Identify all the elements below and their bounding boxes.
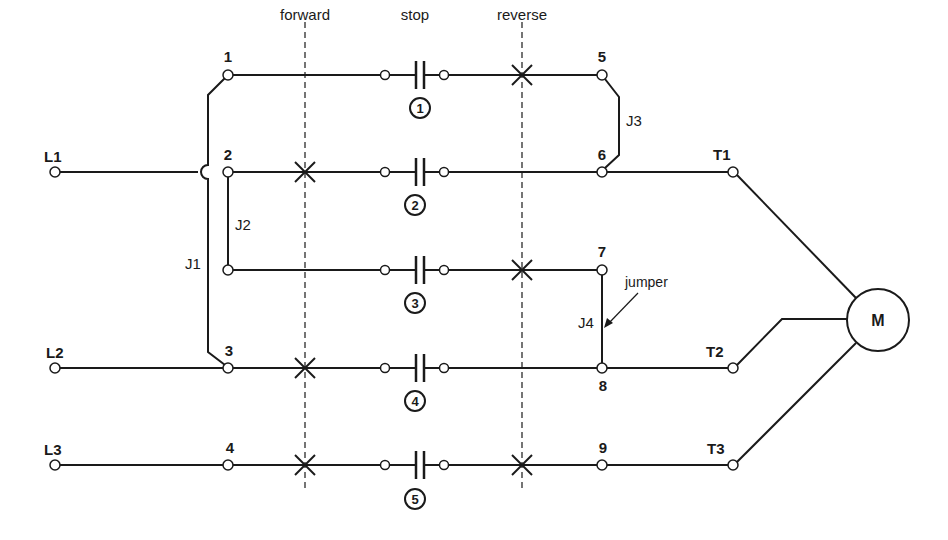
- jumper-arrow: [604, 293, 638, 328]
- jumper-J1: [201, 78, 225, 365]
- motor-label: M: [871, 312, 884, 329]
- node-T3: [728, 460, 738, 470]
- label-T3: T3: [707, 440, 725, 457]
- label-J2: J2: [235, 216, 251, 233]
- label-node-3: 3: [225, 342, 233, 359]
- label-node-6: 6: [598, 146, 606, 163]
- jumper-label: jumper: [624, 274, 668, 290]
- contact-number-1: 1: [410, 98, 430, 118]
- node-1: [223, 70, 233, 80]
- reverse-label: reverse: [497, 6, 547, 23]
- node-L3: [50, 460, 60, 470]
- svg-text:4: 4: [411, 394, 419, 409]
- node-9: [597, 460, 607, 470]
- node-T1: [728, 167, 738, 177]
- contact-number-4: 4: [405, 391, 425, 411]
- node-J2-end: [223, 265, 233, 275]
- node-T2: [728, 363, 738, 373]
- wiring-diagram: forward stop reverse: [0, 0, 948, 540]
- label-node-7: 7: [598, 243, 606, 260]
- label-L1: L1: [44, 148, 62, 165]
- contact-number-5: 5: [405, 489, 425, 509]
- label-J3: J3: [626, 112, 642, 129]
- svg-text:3: 3: [411, 296, 418, 311]
- label-node-9: 9: [599, 439, 607, 456]
- node-4: [223, 460, 233, 470]
- label-node-4: 4: [226, 439, 235, 456]
- node-2: [223, 167, 233, 177]
- svg-text:2: 2: [411, 198, 418, 213]
- node-L1: [50, 167, 60, 177]
- label-J1: J1: [185, 255, 201, 272]
- stop-label: stop: [401, 6, 429, 23]
- contact-number-2: 2: [405, 195, 425, 215]
- svg-text:1: 1: [416, 101, 423, 116]
- wire-T2-motor: [737, 319, 848, 365]
- label-T2: T2: [706, 343, 724, 360]
- forward-label: forward: [280, 6, 330, 23]
- label-L2: L2: [46, 344, 64, 361]
- node-3: [223, 363, 233, 373]
- jumper-J3: [605, 79, 619, 168]
- label-node-1: 1: [224, 48, 232, 65]
- label-J4: J4: [578, 314, 594, 331]
- node-8: [597, 363, 607, 373]
- label-node-8: 8: [599, 377, 607, 394]
- wire-T3-motor: [737, 343, 856, 462]
- node-5: [597, 70, 607, 80]
- node-L2: [50, 363, 60, 373]
- node-6: [597, 167, 607, 177]
- label-node-5: 5: [598, 48, 606, 65]
- label-L3: L3: [44, 441, 62, 458]
- wire-T1-motor: [737, 175, 856, 298]
- node-7: [597, 265, 607, 275]
- svg-text:5: 5: [411, 492, 418, 507]
- label-node-2: 2: [224, 146, 232, 163]
- label-T1: T1: [713, 146, 731, 163]
- contact-number-3: 3: [405, 293, 425, 313]
